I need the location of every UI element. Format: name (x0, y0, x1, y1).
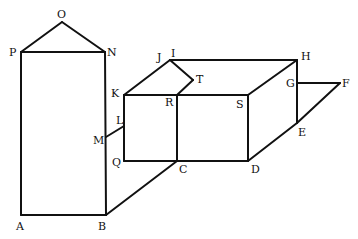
edge-ML (106, 126, 124, 137)
edge-BC (106, 161, 177, 215)
edge-KJ (124, 60, 170, 95)
edge-TR (177, 80, 193, 95)
label-E: E (298, 126, 306, 139)
label-I: I (171, 47, 175, 60)
label-L: L (116, 114, 124, 127)
label-A: A (15, 220, 25, 233)
label-M: M (93, 134, 104, 147)
label-T: T (196, 73, 204, 86)
label-K: K (111, 87, 120, 100)
edge-ED (248, 123, 297, 161)
edge-JT (170, 60, 193, 80)
geometry-diagram: O P N A B J I H K R S T G F E L M Q C D (0, 0, 358, 239)
label-R: R (165, 96, 174, 109)
label-N: N (107, 46, 117, 59)
label-O: O (57, 8, 66, 21)
label-P: P (9, 46, 17, 59)
label-G: G (286, 77, 295, 90)
edge-PO (21, 22, 62, 52)
edges (21, 22, 340, 215)
label-H: H (301, 50, 311, 63)
label-Q: Q (112, 156, 121, 169)
label-J: J (156, 51, 161, 64)
edge-NB (105, 52, 106, 215)
label-C: C (179, 163, 187, 176)
label-F: F (342, 77, 350, 90)
label-D: D (251, 163, 260, 176)
edge-FE (297, 83, 340, 123)
label-B: B (98, 220, 106, 233)
edge-ON (62, 22, 105, 52)
label-S: S (236, 98, 244, 111)
